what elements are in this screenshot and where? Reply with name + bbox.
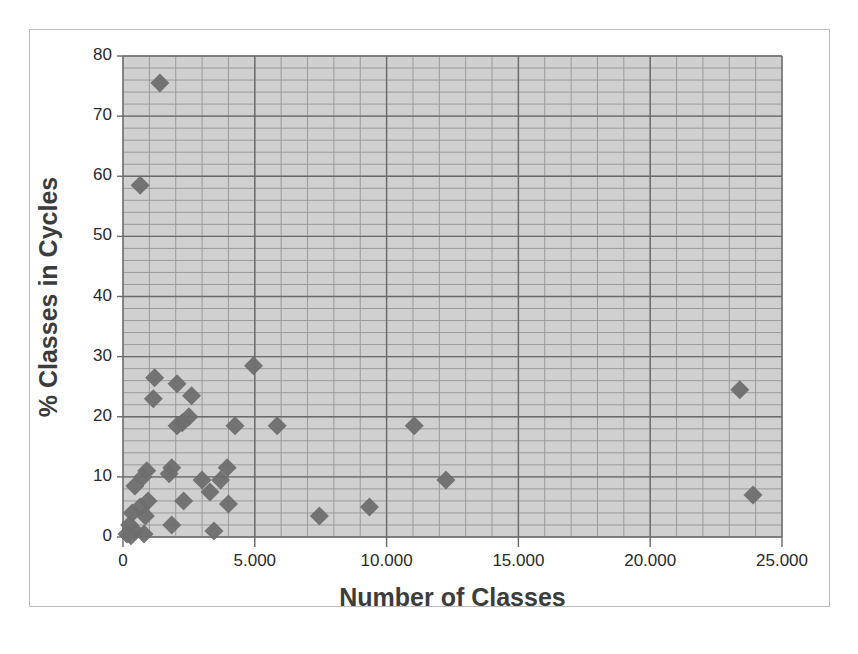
data-points <box>123 56 782 537</box>
x-tick-label: 25.000 <box>737 551 827 571</box>
data-point-diamond-icon <box>174 491 193 510</box>
data-point-diamond-icon <box>744 485 763 504</box>
y-tick-label: 50 <box>72 225 112 245</box>
y-tick-label: 10 <box>72 466 112 486</box>
data-point-diamond-icon <box>150 74 169 93</box>
data-point-diamond-icon <box>182 386 201 405</box>
y-tick-label: 0 <box>72 526 112 546</box>
data-point-diamond-icon <box>244 356 263 375</box>
y-axis-label: % Classes in Cycles <box>34 177 63 417</box>
data-point-diamond-icon <box>226 416 245 435</box>
x-axis-label: Number of Classes <box>123 583 782 612</box>
y-tick-label: 30 <box>72 346 112 366</box>
x-tick-label: 0 <box>78 551 168 571</box>
data-point-diamond-icon <box>730 380 749 399</box>
data-point-diamond-icon <box>268 416 287 435</box>
data-point-diamond-icon <box>131 176 150 195</box>
data-point-diamond-icon <box>436 470 455 489</box>
y-tick-label: 80 <box>72 45 112 65</box>
y-tick-label: 20 <box>72 406 112 426</box>
x-tick-label: 15.000 <box>473 551 563 571</box>
data-point-diamond-icon <box>162 515 181 534</box>
y-tick-label: 60 <box>72 165 112 185</box>
y-tick-label: 40 <box>72 286 112 306</box>
data-point-diamond-icon <box>144 389 163 408</box>
plot-area <box>123 56 782 537</box>
data-point-diamond-icon <box>310 506 329 525</box>
data-point-diamond-icon <box>145 368 164 387</box>
data-point-diamond-icon <box>405 416 424 435</box>
data-point-diamond-icon <box>360 497 379 516</box>
x-tick-label: 5.000 <box>210 551 300 571</box>
x-tick-label: 20.000 <box>605 551 695 571</box>
data-point-diamond-icon <box>219 494 238 513</box>
x-tick-label: 10.000 <box>342 551 432 571</box>
data-point-diamond-icon <box>168 374 187 393</box>
y-tick-label: 70 <box>72 105 112 125</box>
